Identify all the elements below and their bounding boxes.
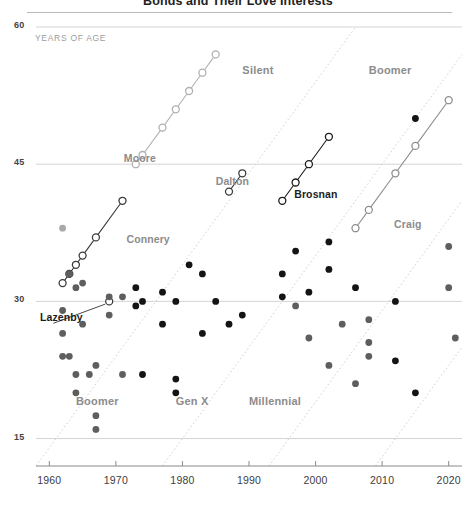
love-interest-point[interactable] — [139, 371, 146, 378]
love-interest-point[interactable] — [86, 371, 93, 378]
bond-point-brosnan[interactable] — [305, 161, 312, 168]
bond-point-moore[interactable] — [199, 69, 206, 76]
y-axis-unit-label: YEARS OF AGE — [35, 33, 106, 43]
love-interest-point[interactable] — [186, 261, 193, 268]
love-interest-point[interactable] — [106, 293, 113, 300]
love-interest-point[interactable] — [326, 362, 333, 369]
love-interest-point[interactable] — [132, 284, 139, 291]
love-interest-point[interactable] — [365, 316, 372, 323]
x-tick-label-2020: 2020 — [424, 474, 474, 486]
y-tick-label-30: 30 — [14, 294, 24, 304]
love-interest-point[interactable] — [59, 353, 66, 360]
love-interest-point[interactable] — [199, 271, 206, 278]
x-tick-label-1990: 1990 — [224, 474, 274, 486]
love-interest-point[interactable] — [365, 339, 372, 346]
love-interest-point[interactable] — [306, 289, 313, 296]
love-interest-point[interactable] — [139, 298, 146, 305]
generation-boundary-1997 — [376, 347, 463, 466]
x-tick-label-1980: 1980 — [157, 474, 207, 486]
generation-label-gen-x: Gen X — [176, 395, 209, 407]
scatter-plot-canvas — [0, 0, 476, 506]
bond-point-brosnan[interactable] — [279, 197, 286, 204]
bond-point-connery[interactable] — [72, 261, 79, 268]
bond-point-moore[interactable] — [186, 88, 193, 95]
generation-label-boomer: Boomer — [369, 64, 412, 76]
y-tick-label-60: 60 — [14, 20, 24, 30]
love-interest-point[interactable] — [93, 412, 100, 419]
bond-point-connery[interactable] — [59, 280, 66, 287]
chart-root: Bonds and Their Love Interests 60453015 … — [0, 0, 476, 506]
data-series-layer — [53, 51, 458, 433]
love-interest-point[interactable] — [159, 289, 166, 296]
love-interest-point[interactable] — [119, 293, 126, 300]
generation-label-millennial: Millennial — [249, 395, 301, 407]
series-love-interests — [59, 115, 459, 433]
bond-point-connery[interactable] — [79, 252, 86, 259]
bond-point-moore[interactable] — [159, 124, 166, 131]
bond-point-craig[interactable] — [445, 97, 452, 104]
love-interest-point[interactable] — [59, 225, 66, 232]
love-interest-point[interactable] — [93, 362, 100, 369]
bond-point-brosnan[interactable] — [292, 179, 299, 186]
love-interest-point[interactable] — [445, 284, 452, 291]
bond-point-craig[interactable] — [412, 142, 419, 149]
love-interest-point[interactable] — [412, 115, 419, 122]
love-interest-point[interactable] — [352, 284, 359, 291]
bond-point-connery[interactable] — [92, 234, 99, 241]
love-interest-point[interactable] — [226, 321, 233, 328]
love-interest-point[interactable] — [93, 426, 100, 433]
love-interest-point[interactable] — [73, 371, 80, 378]
love-interest-point[interactable] — [352, 380, 359, 387]
love-interest-point[interactable] — [172, 376, 179, 383]
love-interest-point[interactable] — [212, 298, 219, 305]
love-interest-point[interactable] — [392, 357, 399, 364]
love-interest-point[interactable] — [132, 303, 139, 310]
love-interest-point[interactable] — [279, 271, 286, 278]
love-interest-point[interactable] — [292, 248, 299, 255]
actor-label-connery: Connery — [127, 233, 170, 245]
y-tick-label-15: 15 — [14, 432, 24, 442]
x-tick-label-1970: 1970 — [91, 474, 141, 486]
love-interest-point[interactable] — [412, 389, 419, 396]
love-interest-point[interactable] — [79, 280, 86, 287]
love-interest-point[interactable] — [106, 312, 113, 319]
love-interest-point[interactable] — [326, 266, 333, 273]
x-tick-label-2010: 2010 — [357, 474, 407, 486]
love-interest-point[interactable] — [279, 293, 286, 300]
love-interest-point[interactable] — [172, 298, 179, 305]
bond-point-dalton[interactable] — [226, 188, 233, 195]
love-interest-point[interactable] — [339, 321, 346, 328]
bond-point-craig[interactable] — [392, 170, 399, 177]
bond-point-craig[interactable] — [365, 206, 372, 213]
love-interest-point[interactable] — [119, 371, 126, 378]
bond-point-moore[interactable] — [212, 51, 219, 58]
love-interest-point[interactable] — [239, 312, 246, 319]
love-interest-point[interactable] — [452, 335, 459, 342]
love-interest-point[interactable] — [199, 330, 206, 337]
love-interest-point[interactable] — [306, 335, 313, 342]
actor-label-dalton: Dalton — [216, 175, 249, 187]
bond-point-craig[interactable] — [352, 225, 359, 232]
love-interest-point[interactable] — [59, 330, 66, 337]
love-interest-point[interactable] — [73, 284, 80, 291]
love-interest-point[interactable] — [159, 321, 166, 328]
love-interest-point[interactable] — [392, 298, 399, 305]
bond-point-brosnan[interactable] — [325, 133, 332, 140]
generation-label-silent: Silent — [242, 64, 273, 76]
love-interest-point[interactable] — [365, 353, 372, 360]
love-interest-point[interactable] — [66, 271, 73, 278]
actor-label-brosnan: Brosnan — [294, 188, 337, 200]
love-interest-point[interactable] — [326, 239, 333, 246]
love-interest-point[interactable] — [292, 303, 299, 310]
bond-point-moore[interactable] — [172, 106, 179, 113]
love-interest-point[interactable] — [66, 353, 73, 360]
generation-boundary-1981 — [269, 201, 462, 466]
series-moore — [132, 51, 219, 168]
x-tick-label-1960: 1960 — [24, 474, 74, 486]
actor-label-moore: Moore — [124, 152, 156, 164]
y-tick-label-45: 45 — [14, 157, 24, 167]
love-interest-point[interactable] — [445, 243, 452, 250]
bond-point-connery[interactable] — [119, 197, 126, 204]
actor-label-lazenby: Lazenby — [40, 311, 83, 323]
generation-label-boomer: Boomer — [76, 395, 119, 407]
